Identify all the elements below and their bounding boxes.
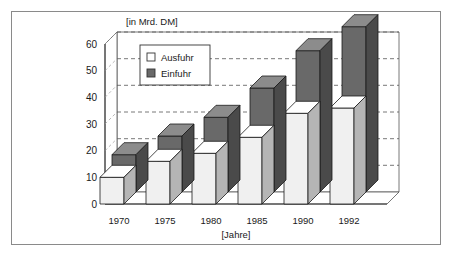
y-axis-ticks: 0 10 20 30 40 50 60 <box>86 39 98 210</box>
bar-ausfuhr-1980 <box>192 141 228 204</box>
x-tick-label: 1985 <box>246 215 267 226</box>
x-tick-label: 1990 <box>292 215 313 226</box>
y-tick-label: 60 <box>86 39 98 50</box>
y-axis-unit-label: [in Mrd. DM] <box>126 16 178 27</box>
y-tick-label: 50 <box>86 65 98 76</box>
y-tick-label: 20 <box>86 145 98 156</box>
y-tick-label: 40 <box>86 92 98 103</box>
legend: Ausfuhr Einfuhr <box>140 45 210 85</box>
legend-swatch-einfuhr <box>147 69 155 77</box>
x-axis-title: [Jahre] <box>221 229 250 240</box>
x-axis-ticks: 1970 1975 1980 1985 1990 1992 <box>108 215 359 226</box>
x-tick-label: 1992 <box>338 215 359 226</box>
x-tick-label: 1970 <box>108 215 129 226</box>
y-tick-label: 0 <box>91 199 97 210</box>
chart-figure: 0 10 20 30 40 50 60 [in Mrd. DM] <box>0 0 454 264</box>
bar-ausfuhr-1985 <box>238 125 274 204</box>
bar-chart-3d: 0 10 20 30 40 50 60 [in Mrd. DM] <box>0 0 454 264</box>
bar-ausfuhr-1992 <box>330 96 366 204</box>
bar-ausfuhr-1975 <box>146 149 182 204</box>
y-tick-label: 10 <box>86 172 98 183</box>
legend-label-ausfuhr: Ausfuhr <box>161 52 194 63</box>
x-tick-label: 1975 <box>154 215 175 226</box>
legend-label-einfuhr: Einfuhr <box>161 68 191 79</box>
legend-swatch-ausfuhr <box>147 53 155 61</box>
y-tick-label: 30 <box>86 119 98 130</box>
bar-ausfuhr-1990 <box>284 101 320 204</box>
x-tick-label: 1980 <box>200 215 221 226</box>
